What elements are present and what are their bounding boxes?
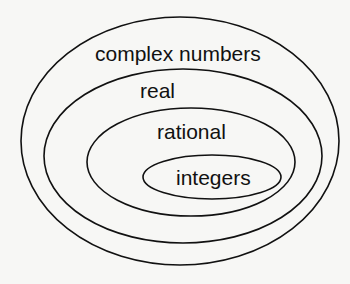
rational-label: rational — [157, 120, 226, 143]
complex-numbers-label: complex numbers — [95, 42, 261, 65]
real-set — [44, 69, 322, 243]
real-label: real — [140, 79, 175, 102]
number-sets-diagram: complex numbers real rational integers — [0, 0, 350, 284]
integers-label: integers — [176, 166, 251, 189]
